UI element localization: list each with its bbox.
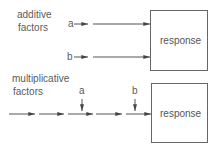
multiplicative-title-line1: multiplicative: [12, 73, 69, 84]
multiplicative-input-a-label: a: [79, 85, 85, 96]
multiplicative-response-label: response: [160, 108, 201, 119]
multiplicative-title-line2: factors: [13, 86, 43, 97]
multiplicative-input-b-label: b: [132, 85, 138, 96]
additive-input-b-label: b: [67, 51, 73, 62]
additive-title-line2: factors: [18, 22, 48, 33]
additive-response-label: response: [160, 35, 201, 46]
additive-input-a-label: a: [68, 18, 74, 29]
additive-title-line1: additive: [17, 9, 51, 20]
